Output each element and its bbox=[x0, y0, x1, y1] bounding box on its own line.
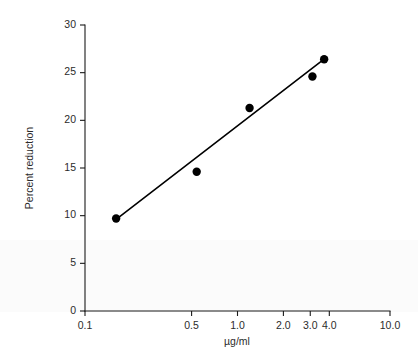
x-axis-tick-label: 0.1 bbox=[78, 319, 93, 331]
data-point bbox=[308, 72, 316, 80]
data-point bbox=[320, 55, 328, 63]
x-axis-tick-label: 0.5 bbox=[184, 319, 199, 331]
y-axis-tick-label: 15 bbox=[64, 161, 76, 173]
y-axis-tick-label: 20 bbox=[64, 113, 76, 125]
x-axis-tick-label: 2.0 bbox=[276, 319, 291, 331]
x-axis-title: µg/ml bbox=[224, 335, 250, 347]
y-axis-tick-label: 25 bbox=[64, 65, 76, 77]
data-point bbox=[245, 104, 253, 112]
y-axis-tick-label: 10 bbox=[64, 208, 76, 220]
data-point bbox=[112, 214, 120, 222]
y-axis-tick-label: 0 bbox=[70, 304, 76, 316]
x-axis-tick-label: 4.0 bbox=[322, 319, 337, 331]
x-axis-tick-label: 1.0 bbox=[230, 319, 245, 331]
y-axis-tick-label: 30 bbox=[64, 18, 76, 30]
y-axis-title: Percent reduction bbox=[23, 127, 35, 209]
x-axis-tick-label: 10.0 bbox=[380, 319, 401, 331]
chart-plot-area: 051015202530 0.10.51.02.03.04.010.0 µg/m… bbox=[0, 0, 418, 364]
x-axis-tick-label: 3.0 bbox=[303, 319, 318, 331]
data-point bbox=[192, 168, 200, 176]
background-band bbox=[0, 240, 418, 312]
x-axis-tick-labels: 0.10.51.02.03.04.010.0 bbox=[78, 319, 401, 331]
regression-line bbox=[116, 58, 325, 219]
y-axis-tick-label: 5 bbox=[70, 256, 76, 268]
chart-figure: 051015202530 0.10.51.02.03.04.010.0 µg/m… bbox=[0, 0, 418, 364]
